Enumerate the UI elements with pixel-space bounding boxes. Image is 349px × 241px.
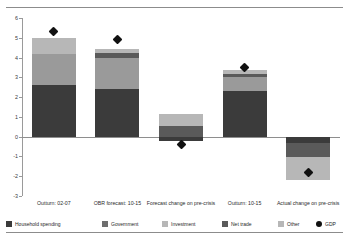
bar-segment [286, 143, 330, 158]
y-tick-mark [19, 137, 22, 138]
legend-item[interactable]: GDP [316, 219, 336, 229]
y-tick-label: 2 [4, 94, 18, 100]
y-tick-label: -3 [4, 193, 18, 199]
legend-item[interactable]: Investment [162, 219, 195, 229]
y-tick-mark [19, 77, 22, 78]
legend-swatch-icon [316, 221, 322, 227]
x-axis-label: Actual change on pre-crisis [268, 200, 348, 206]
y-tick-label: 3 [4, 74, 18, 80]
bar-segment [95, 89, 139, 136]
y-tick-mark [19, 196, 22, 197]
bar-segment [95, 49, 139, 53]
y-axis-line [22, 18, 23, 196]
y-tick-mark [19, 58, 22, 59]
y-tick-label: 0 [4, 134, 18, 140]
bar-segment [32, 85, 76, 136]
legend-label: Household spending [15, 221, 61, 227]
plot-area: 6543210-1-2-3 Outturn: 02-07OBR forecast… [22, 18, 340, 196]
bar-segment [95, 58, 139, 90]
bar-segment [159, 114, 203, 126]
bar-segment [32, 38, 76, 54]
legend-swatch-icon [162, 221, 168, 227]
legend-item[interactable]: Government [102, 219, 139, 229]
bottom-divider [6, 232, 343, 233]
legend-label: GDP [325, 221, 336, 227]
bar-segment [32, 54, 76, 86]
stacked-bar [95, 18, 139, 196]
y-tick-label: -2 [4, 173, 18, 179]
legend-item[interactable]: Household spending [6, 219, 61, 229]
stacked-bar [223, 18, 267, 196]
stacked-bar [32, 18, 76, 196]
top-divider [6, 7, 343, 8]
y-tick-mark [19, 176, 22, 177]
legend-label: Government [111, 221, 139, 227]
legend-label: Investment [171, 221, 195, 227]
legend-swatch-icon [278, 221, 284, 227]
chart-legend: Household spendingGovernmentInvestmentNe… [6, 219, 343, 229]
y-tick-mark [19, 38, 22, 39]
legend-swatch-icon [222, 221, 228, 227]
bar-segment [223, 74, 267, 77]
legend-swatch-icon [6, 221, 12, 227]
y-tick-label: 5 [4, 35, 18, 41]
legend-item[interactable]: Other [278, 219, 300, 229]
y-tick-label: 1 [4, 114, 18, 120]
bar-segment [223, 91, 267, 136]
y-tick-label: 4 [4, 55, 18, 61]
legend-label: Net trade [231, 221, 252, 227]
bar-segment [159, 126, 203, 137]
stacked-bar [159, 18, 203, 196]
y-tick-label: -1 [4, 153, 18, 159]
y-tick-mark [19, 117, 22, 118]
bar-segment [95, 53, 139, 58]
chart-root: 6543210-1-2-3 Outturn: 02-07OBR forecast… [0, 0, 349, 241]
y-tick-mark [19, 97, 22, 98]
legend-label: Other [287, 221, 300, 227]
y-tick-label: 6 [4, 15, 18, 21]
bar-segment [223, 77, 267, 91]
y-tick-mark [19, 156, 22, 157]
legend-item[interactable]: Net trade [222, 219, 252, 229]
legend-swatch-icon [102, 221, 108, 227]
y-tick-mark [19, 18, 22, 19]
